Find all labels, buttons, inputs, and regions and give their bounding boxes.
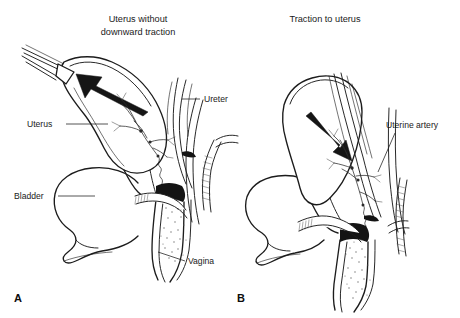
artery-origin-shadow-a [182, 151, 196, 157]
anatomical-illustration-canvas: Uterus without downward traction Tractio… [0, 0, 460, 318]
panel-a-title-line-2: downward traction [101, 27, 176, 37]
label-bladder-a: Bladder [14, 191, 44, 201]
paravaginal-stipple-b [344, 239, 370, 298]
pelvic-sidewall-vessel-a [202, 135, 238, 212]
artery-origin-shadow-b [364, 215, 379, 221]
vagina-cervix-structure-b [333, 223, 375, 312]
panel-a-drawing [22, 45, 238, 282]
panel-letter-a: A [14, 292, 22, 304]
panel-letter-b: B [237, 292, 245, 304]
ureter-structure-a [186, 98, 203, 224]
bladder-outline-a [54, 168, 138, 263]
label-uterine-artery-b: Uterine artery [386, 120, 439, 130]
label-uterus-a: Uterus [27, 119, 52, 129]
panel-b-drawing [246, 73, 409, 312]
uterus-lower-segment-inner-a [150, 170, 156, 194]
panel-b-title-line-1: Traction to uterus [289, 14, 361, 24]
panel-a-title-line-1: Uterus without [109, 14, 168, 24]
illustration-figure: Uterus without downward traction Tractio… [0, 0, 460, 318]
leader-uterine-artery-b [378, 133, 395, 172]
panel-b-labels: Uterine artery [378, 120, 439, 172]
label-vagina-a: Vagina [188, 256, 214, 266]
label-ureter-a: Ureter [204, 94, 228, 104]
